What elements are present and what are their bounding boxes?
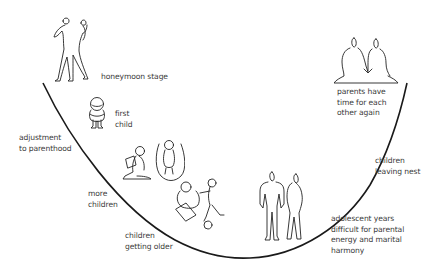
label-children-getting-older: children getting older [125,231,173,252]
family-life-cycle-diagram: honeymoon stage first child adjustment t… [0,0,441,274]
label-adolescent-years: adolescent years difficult for parental … [331,214,404,256]
reading-child-icon [120,145,154,181]
label-honeymoon-stage: honeymoon stage [101,72,168,83]
label-adjustment-to-parenthood: adjustment to parenthood [19,133,72,154]
children-playing-icon [172,175,232,235]
label-more-children: more children [88,189,118,210]
label-first-child: first child [115,109,133,130]
adolescent-pair-icon [258,168,310,244]
label-parents-have-time: parents have time for each other again [337,87,386,119]
seated-couple-holding-hands-icon [334,35,402,85]
label-children-leaving-nest: children leaving nest [375,156,420,177]
toddler-icon [87,96,107,130]
dancing-couple-icon [45,15,100,87]
